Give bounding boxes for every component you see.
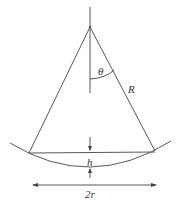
chord-line [29,152,155,153]
h-up-arrowhead-icon [88,168,92,173]
left-radius-line [29,27,90,153]
radius-label: R [127,83,135,95]
h-down-arrowhead-icon [88,146,92,151]
apex-point [89,26,91,28]
width-left-arrowhead-icon [32,183,38,187]
right-radius-line [90,27,155,151]
width-label: 2r [85,188,96,200]
theta-label: θ [98,65,104,77]
diagram-svg: θ R h 2r [0,0,179,209]
width-right-arrowhead-icon [151,183,157,187]
height-label: h [87,156,93,168]
spherical-cap-diagram: θ R h 2r [0,0,179,209]
